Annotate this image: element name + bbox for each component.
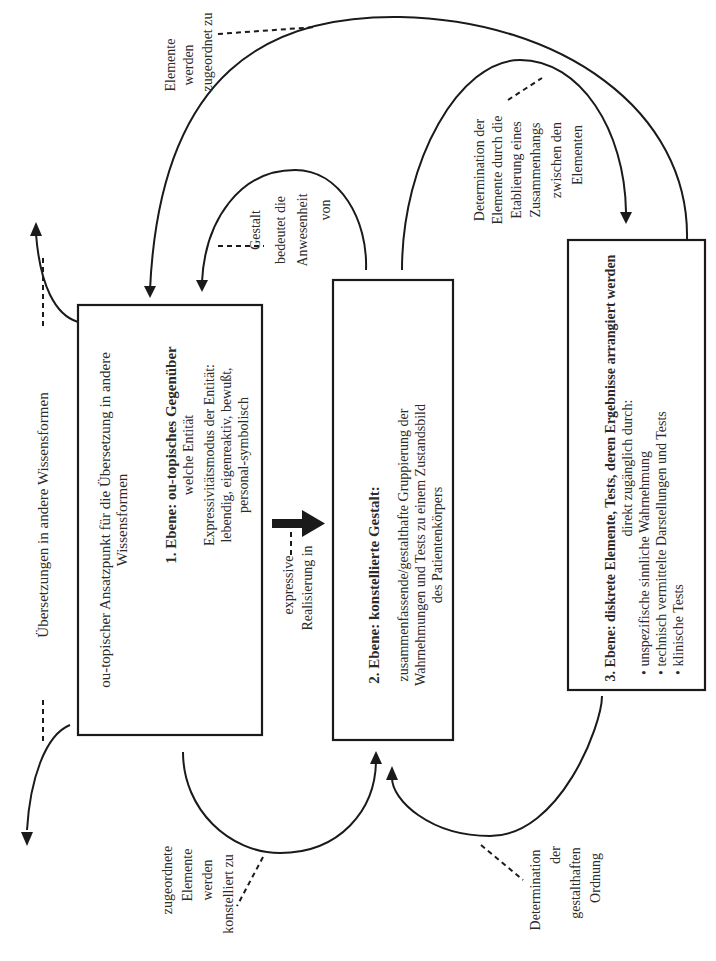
box1-detail-line1: Expressivitätsmodus der Entität: [202, 364, 217, 546]
gestalt-line4: von [318, 200, 333, 221]
arrowhead-up-icon [370, 751, 382, 764]
three-level-diagram: ou-topischer Ansatzpunkt für die Überset… [0, 0, 716, 961]
box2-heading: 2. Ebene: konstellierte Gestalt: [366, 486, 382, 683]
determination-elements-annotation: Determination der Elemente durch die Eta… [402, 60, 632, 270]
constellated-line3: werden [200, 859, 215, 900]
constellated-arc [183, 752, 376, 853]
determination-line4: Zusammenhangs [528, 123, 543, 218]
assigned-line1: Elemente [163, 39, 178, 92]
arrowhead-down-icon [196, 280, 208, 292]
determination-line6: Elementen [570, 125, 585, 185]
constellated-line1: zugeordnete [160, 846, 175, 914]
box3-bullet-3: • klinische Tests [671, 584, 686, 675]
determination-line3: Etablierung eines [509, 121, 524, 219]
box3-bullet-1: • unspezifische sinnliche Wahrnehmung [637, 451, 652, 675]
gestalt-line2: bedeutet die [273, 196, 288, 264]
order-line4: Ordnung [588, 853, 603, 903]
expressive-annotation: expressive Realisierung in [272, 510, 325, 631]
determination-line5: zwischen den [549, 122, 564, 198]
gestalt-line3: Anwesenheit [295, 193, 310, 266]
box1-heading: 1. Ebene: ou-topisches Gegenüber [163, 346, 179, 564]
arrowhead-down-icon [21, 832, 33, 846]
expressive-arrow-shaft [272, 519, 304, 528]
expressive-line2: Realisierung in [300, 545, 315, 630]
constellated-annotation: zugeordnete Elemente werden konstelliert… [160, 751, 382, 934]
box1-intro-line1: ou-topischer Ansatzpunkt für die Überset… [97, 352, 113, 688]
order-line2: der [548, 846, 563, 864]
box3-subheading: direkt zugänglich durch: [620, 400, 635, 537]
box1-intro-line2: Wissensformen [114, 473, 130, 566]
box1-subheading: welche Entität [181, 415, 196, 496]
determination-line2: Elemente durch die [490, 116, 505, 225]
determination-line1: Determination der [472, 119, 487, 222]
order-line3: gestalthaften [568, 847, 583, 919]
arrowhead-up-icon [386, 766, 398, 780]
order-line1: Determination [528, 850, 543, 931]
box2-body-line3: des Patientenkörpers [430, 487, 445, 603]
box2-body-line1: zusammenfassende/gestalthafte Gruppierun… [396, 408, 411, 681]
determination-leader [508, 78, 542, 100]
expressive-line1: expressive [281, 555, 296, 614]
arrowhead-right-icon [302, 510, 325, 537]
box3-bullet-2: • technisch vermittelte Darstellungen un… [654, 411, 669, 675]
assigned-line3: zugeordnet zu [200, 13, 215, 92]
arrowhead-down-icon [620, 212, 632, 224]
arrowhead-up-icon [30, 222, 42, 236]
constellated-line2: Elemente [180, 849, 195, 902]
constellated-line4: konstelliert zu [221, 854, 236, 934]
gestalt-presence-annotation: Gestalt bedeutet die Anwesenheit von [196, 170, 366, 292]
box3-heading: 3. Ebene: diskrete Elemente, Tests, dere… [603, 254, 618, 681]
order-leader [481, 845, 523, 880]
box1-detail-line3: personal-symbolisch [236, 397, 251, 513]
assigned-line2: werden [181, 44, 196, 85]
box2-body-line2: Wahrnehmungen und Tests zu einem Zustand… [413, 404, 428, 686]
box1-detail-line2: lebendig, eigenreaktiv, bewußt, [219, 367, 234, 542]
constellated-leader [237, 857, 263, 906]
translation-arrow-down [27, 725, 70, 830]
gestalt-line1: Gestalt [248, 210, 263, 250]
translations-label: Übersetzungen in andere Wissensformen [35, 392, 51, 638]
arrowhead-down-icon [144, 286, 156, 298]
translations-annotation: Übersetzungen in andere Wissensformen [21, 222, 78, 846]
